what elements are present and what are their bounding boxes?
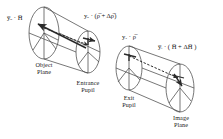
image-vector-label: y̅ᵢ · ( H̅ + ΔH̅ ): [158, 43, 196, 51]
exit-pupil-ellipse: [116, 46, 142, 90]
vector-arrow-entrance: [83, 38, 95, 45]
entrance-pupil-label: Entrance Pupil: [66, 79, 110, 93]
exit-pupil-label: Exit Pupil: [110, 94, 148, 108]
vector-arrow-object: [38, 24, 86, 48]
vector-arrow-exit: [124, 54, 136, 61]
object-vector-label: y̅ₒ · H̅: [7, 14, 22, 22]
dashed-chief-ray-2: [129, 56, 178, 78]
image-plane-label: Image Plane: [161, 114, 201, 128]
entrance-vector-label: yₑ · (ρ̅ + Δρ̅): [84, 12, 116, 20]
entrance-pupil-ellipse: [76, 31, 100, 73]
image-plane-ellipse: [166, 64, 194, 112]
exit-vector-label: yₓ · ρ̅: [122, 33, 136, 41]
optical-ray-diagram: y̅ₒ · H̅ yₑ · (ρ̅ + Δρ̅) yₓ · ρ̅ y̅ᵢ · (…: [0, 0, 223, 139]
object-plane-label: Object Plane: [24, 61, 64, 75]
